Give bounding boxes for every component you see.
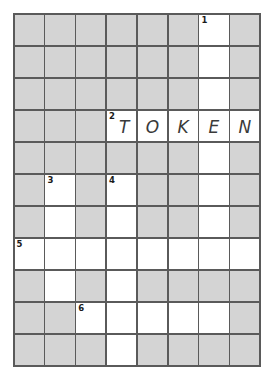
crossword-cell-blocked	[15, 15, 44, 45]
crossword-cell-blocked	[45, 335, 74, 365]
crossword-cell-open[interactable]	[76, 239, 105, 269]
crossword-clue-number: 3	[47, 175, 53, 186]
crossword-cell-open[interactable]	[107, 271, 136, 301]
crossword-cell-open[interactable]	[107, 207, 136, 237]
crossword-cell-open[interactable]: 4	[107, 175, 136, 205]
crossword-cell-blocked	[230, 207, 259, 237]
crossword-cell-blocked	[107, 79, 136, 109]
crossword-cell-blocked	[169, 47, 198, 77]
crossword-cell-open[interactable]: N	[230, 111, 259, 141]
crossword-cell-blocked	[15, 271, 44, 301]
crossword-cell-open[interactable]	[199, 79, 228, 109]
crossword-cell-letter: T	[107, 111, 136, 141]
crossword-clue-number: 6	[78, 303, 84, 314]
crossword-cell-blocked	[15, 143, 44, 173]
crossword-cell-blocked	[45, 15, 74, 45]
crossword-cell-blocked	[138, 79, 167, 109]
crossword-cell-blocked	[138, 207, 167, 237]
crossword-cell-blocked	[76, 175, 105, 205]
crossword-cell-blocked	[45, 79, 74, 109]
crossword-cell-blocked	[76, 271, 105, 301]
crossword-cell-blocked	[230, 143, 259, 173]
crossword-cell-open[interactable]	[107, 335, 136, 365]
crossword-cell-open[interactable]	[199, 47, 228, 77]
crossword-cell-blocked	[45, 143, 74, 173]
crossword-cell-open[interactable]	[230, 239, 259, 269]
crossword-cell-blocked	[169, 335, 198, 365]
crossword-cell-blocked	[107, 143, 136, 173]
crossword-cell-open[interactable]: E	[199, 111, 228, 141]
crossword-cell-blocked	[230, 47, 259, 77]
crossword-cell-blocked	[230, 335, 259, 365]
crossword-cell-blocked	[15, 79, 44, 109]
crossword-cell-blocked	[76, 79, 105, 109]
crossword-cell-open[interactable]	[45, 239, 74, 269]
crossword-cell-blocked	[138, 271, 167, 301]
crossword-cell-letter: O	[138, 111, 167, 141]
crossword-cell-blocked	[230, 271, 259, 301]
crossword-cell-open[interactable]: 2T	[107, 111, 136, 141]
crossword-cell-blocked	[138, 47, 167, 77]
crossword-cell-blocked	[230, 303, 259, 333]
crossword-cell-open[interactable]: O	[138, 111, 167, 141]
crossword-clue-number: 4	[109, 175, 115, 186]
crossword-cell-open[interactable]: 6	[76, 303, 105, 333]
crossword-cell-blocked	[45, 111, 74, 141]
crossword-cell-blocked	[15, 303, 44, 333]
crossword-cell-blocked	[107, 15, 136, 45]
crossword-cell-open[interactable]	[138, 303, 167, 333]
crossword-cell-open[interactable]: 3	[45, 175, 74, 205]
crossword-cell-blocked	[76, 111, 105, 141]
crossword-cell-blocked	[138, 175, 167, 205]
crossword-cell-open[interactable]	[199, 303, 228, 333]
crossword-cell-letter: K	[169, 111, 198, 141]
crossword-cell-blocked	[76, 335, 105, 365]
crossword-cell-open[interactable]: 5	[15, 239, 44, 269]
crossword-cell-blocked	[169, 15, 198, 45]
crossword-puzzle: 12TOKEN3456	[13, 13, 261, 367]
crossword-cell-blocked	[169, 79, 198, 109]
crossword-cell-letter: E	[199, 111, 228, 141]
crossword-cell-blocked	[230, 79, 259, 109]
crossword-cell-blocked	[138, 15, 167, 45]
crossword-cell-blocked	[230, 15, 259, 45]
crossword-cell-blocked	[169, 175, 198, 205]
crossword-cell-open[interactable]	[199, 239, 228, 269]
crossword-cell-blocked	[199, 271, 228, 301]
crossword-cell-open[interactable]	[169, 239, 198, 269]
crossword-cell-open[interactable]	[199, 207, 228, 237]
crossword-cell-blocked	[138, 335, 167, 365]
crossword-cell-blocked	[15, 335, 44, 365]
crossword-cell-blocked	[138, 143, 167, 173]
crossword-cell-blocked	[199, 335, 228, 365]
crossword-cell-blocked	[169, 271, 198, 301]
crossword-cell-blocked	[230, 175, 259, 205]
crossword-cell-blocked	[45, 303, 74, 333]
crossword-grid: 12TOKEN3456	[13, 13, 261, 367]
crossword-cell-blocked	[76, 47, 105, 77]
crossword-cell-blocked	[15, 47, 44, 77]
crossword-clue-number: 5	[17, 239, 23, 250]
crossword-cell-blocked	[15, 175, 44, 205]
crossword-cell-open[interactable]: K	[169, 111, 198, 141]
crossword-cell-open[interactable]	[138, 239, 167, 269]
crossword-cell-open[interactable]	[199, 143, 228, 173]
crossword-cell-blocked	[107, 47, 136, 77]
crossword-cell-blocked	[76, 15, 105, 45]
crossword-cell-open[interactable]	[107, 239, 136, 269]
crossword-cell-letter: N	[230, 111, 259, 141]
crossword-cell-open[interactable]	[169, 303, 198, 333]
crossword-cell-blocked	[15, 207, 44, 237]
crossword-cell-blocked	[169, 207, 198, 237]
crossword-clue-number: 1	[201, 15, 207, 26]
crossword-cell-open[interactable]	[199, 175, 228, 205]
crossword-cell-open[interactable]	[107, 303, 136, 333]
crossword-cell-open[interactable]	[45, 271, 74, 301]
crossword-cell-open[interactable]: 1	[199, 15, 228, 45]
crossword-cell-blocked	[76, 207, 105, 237]
crossword-cell-blocked	[45, 47, 74, 77]
crossword-cell-open[interactable]	[45, 207, 74, 237]
crossword-cell-blocked	[15, 111, 44, 141]
crossword-cell-blocked	[169, 143, 198, 173]
crossword-cell-blocked	[76, 143, 105, 173]
